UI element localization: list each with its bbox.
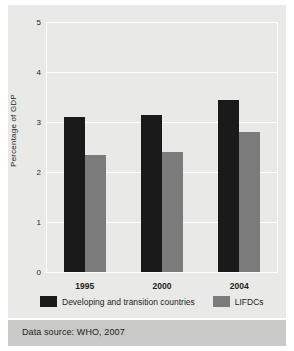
y-axis-tick-label: 4 <box>37 68 41 77</box>
chart-legend: Developing and transition countriesLIFDC… <box>40 296 264 307</box>
x-axis-tick-label: 2000 <box>153 281 172 291</box>
x-axis-tick-label: 2004 <box>230 281 249 291</box>
legend-swatch <box>40 296 57 307</box>
legend-label: Developing and transition countries <box>62 297 195 307</box>
gridline <box>46 22 278 23</box>
bar-2004-developing <box>218 100 239 273</box>
x-axis-tick-label: 1995 <box>75 281 94 291</box>
legend-entry: LIFDCs <box>213 296 264 307</box>
bar-2004-lifdcs <box>239 132 260 272</box>
y-axis-tick-label: 1 <box>37 218 41 227</box>
gridline <box>46 72 278 73</box>
bar-1995-lifdcs <box>85 155 106 273</box>
legend-swatch <box>213 296 230 307</box>
y-axis-title: Percentage of GDP <box>9 76 18 186</box>
data-source-text: Data source: WHO, 2007 <box>22 327 125 337</box>
legend-entry: Developing and transition countries <box>40 296 195 307</box>
bar-2000-lifdcs <box>162 152 183 272</box>
gridline <box>46 272 278 273</box>
plot-area: 012345199520002004 <box>46 22 278 272</box>
y-axis-tick-label: 3 <box>37 118 41 127</box>
bar-2000-developing <box>141 115 162 273</box>
bar-1995-developing <box>64 117 85 272</box>
y-axis-tick-label: 2 <box>37 168 41 177</box>
plot-right-border <box>277 22 278 273</box>
chart-figure: Percentage of GDP 012345199520002004 Dev… <box>0 0 294 351</box>
y-axis-tick-label: 5 <box>37 18 41 27</box>
legend-label: LIFDCs <box>235 297 264 307</box>
y-axis-tick-label: 0 <box>37 268 41 277</box>
y-axis-line <box>46 22 47 273</box>
